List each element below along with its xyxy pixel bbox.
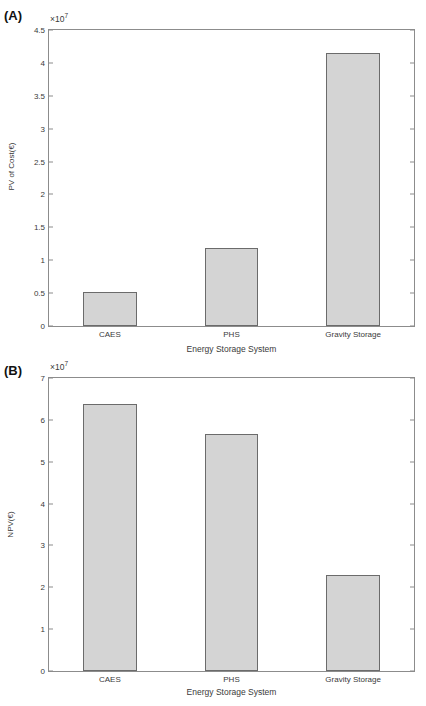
panel-b-y-tick-mark-right-1 [410,629,414,630]
panel-a-y-tick-label-0: 0 [41,322,49,331]
panel-b: (B) ×107 NPV(€) 01234567CAESPHSGravity S… [0,355,426,706]
panel-a-y-tick-mark-left-0 [49,326,53,327]
panel-b-y-tick-mark-left-0 [49,671,53,672]
panel-b-y-tick-label-0: 0 [41,667,49,676]
panel-b-y-tick-label-3: 3 [41,541,49,550]
panel-a-y-tick-label-8: 4 [41,58,49,67]
panel-b-y-tick-label-4: 4 [41,499,49,508]
panel-b-y-exponent: ×107 [50,360,68,372]
panel-a-y-tick-mark-right-5 [410,161,414,162]
panel-a-exponent-power: 7 [64,12,68,19]
panel-a: (A) ×107 PV of Cost(€) 00.511.522.533.54… [0,0,426,355]
panel-a-y-tick-mark-right-4 [410,194,414,195]
panel-b-y-tick-mark-right-5 [410,461,414,462]
panel-a-y-tick-label-5: 2.5 [34,157,49,166]
panel-a-y-tick-mark-left-1 [49,293,53,294]
panel-b-x-axis-label: Energy Storage System [48,687,415,697]
panel-b-y-tick-label-1: 1 [41,625,49,634]
panel-b-bar-phs [205,434,259,671]
panel-b-y-tick-label-5: 5 [41,457,49,466]
panel-a-bar-gravity-storage [326,53,380,326]
panel-b-y-tick-mark-right-7 [410,378,414,379]
panel-b-y-tick-label-6: 6 [41,415,49,424]
panel-b-y-tick-mark-left-3 [49,545,53,546]
panel-a-exponent-base: ×10 [50,14,64,24]
panel-a-y-tick-label-3: 1.5 [34,223,49,232]
panel-a-y-tick-label-9: 4.5 [34,26,49,35]
panel-b-y-tick-mark-right-3 [410,545,414,546]
panel-a-y-axis-label: PV of Cost(€) [7,137,16,197]
panel-a-y-tick-label-6: 3 [41,124,49,133]
panel-a-y-tick-mark-left-8 [49,62,53,63]
panel-b-y-tick-mark-left-1 [49,629,53,630]
panel-a-plot-area: 00.511.522.533.544.5CAESPHSGravity Stora… [48,29,415,327]
panel-b-y-tick-mark-left-7 [49,378,53,379]
panel-a-y-tick-label-7: 3.5 [34,91,49,100]
panel-a-y-exponent: ×107 [50,12,68,24]
panel-b-y-axis-label: NPV(€) [6,502,15,547]
panel-a-y-tick-mark-left-3 [49,227,53,228]
panel-a-y-tick-mark-right-2 [410,260,414,261]
panel-a-x-axis-label: Energy Storage System [48,344,415,354]
panel-a-bar-phs [205,248,259,326]
panel-a-tag: (A) [4,8,22,23]
panel-b-y-tick-mark-left-5 [49,461,53,462]
panel-a-y-tick-mark-left-9 [49,30,53,31]
panel-a-y-tick-label-2: 1 [41,256,49,265]
panel-a-y-tick-mark-left-2 [49,260,53,261]
panel-a-y-tick-mark-right-8 [410,62,414,63]
panel-b-y-tick-mark-left-2 [49,587,53,588]
panel-b-exponent-base: ×10 [50,362,64,372]
panel-a-bar-caes [83,292,137,326]
panel-a-y-tick-mark-right-1 [410,293,414,294]
panel-b-y-tick-mark-left-4 [49,503,53,504]
figure-two-panel-bar-charts: (A) ×107 PV of Cost(€) 00.511.522.533.54… [0,0,426,706]
panel-b-y-tick-mark-right-4 [410,503,414,504]
panel-b-y-tick-label-2: 2 [41,583,49,592]
panel-b-x-tick-label-1: PHS [223,675,239,684]
panel-b-y-tick-mark-right-0 [410,671,414,672]
panel-b-plot-area: 01234567CAESPHSGravity Storage [48,377,415,672]
panel-a-y-tick-mark-right-9 [410,30,414,31]
panel-a-x-tick-label-0: CAES [99,330,121,339]
panel-a-y-tick-mark-right-6 [410,128,414,129]
panel-a-y-tick-mark-right-3 [410,227,414,228]
panel-b-y-tick-mark-left-6 [49,419,53,420]
panel-b-x-tick-label-0: CAES [99,675,121,684]
panel-a-y-tick-label-4: 2 [41,190,49,199]
panel-b-tag: (B) [4,363,22,378]
panel-a-y-tick-mark-left-6 [49,128,53,129]
panel-a-x-tick-label-2: Gravity Storage [325,330,381,339]
panel-a-y-tick-mark-left-4 [49,194,53,195]
panel-b-y-tick-mark-right-2 [410,587,414,588]
panel-b-bar-gravity-storage [326,575,380,671]
panel-b-exponent-power: 7 [64,360,68,367]
panel-b-bar-caes [83,404,137,671]
panel-a-y-tick-mark-left-5 [49,161,53,162]
panel-b-y-tick-label-7: 7 [41,374,49,383]
panel-a-y-tick-mark-right-0 [410,326,414,327]
panel-b-y-tick-mark-right-6 [410,419,414,420]
panel-a-y-tick-mark-right-7 [410,95,414,96]
panel-a-y-tick-mark-left-7 [49,95,53,96]
panel-a-x-tick-label-1: PHS [223,330,239,339]
panel-a-y-tick-label-1: 0.5 [34,289,49,298]
panel-b-x-tick-label-2: Gravity Storage [325,675,381,684]
